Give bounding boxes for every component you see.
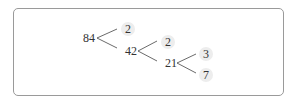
factor-tree-branches xyxy=(0,0,299,102)
branch-21 xyxy=(177,54,196,73)
node-42: 42 xyxy=(125,45,137,57)
node-84: 84 xyxy=(83,32,95,44)
node-7: 7 xyxy=(203,69,209,81)
node-2: 2 xyxy=(125,23,131,35)
node-3: 3 xyxy=(203,48,209,60)
node-21: 21 xyxy=(165,57,177,69)
branch-42 xyxy=(138,41,157,61)
branch-84 xyxy=(97,29,117,48)
node-2: 2 xyxy=(165,36,171,48)
